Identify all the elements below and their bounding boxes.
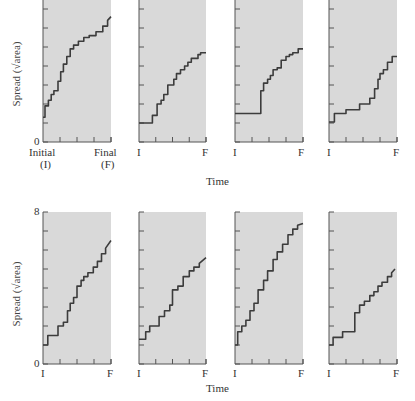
y-axis-label-bottom: Spread (√area) xyxy=(10,244,22,344)
x-label-f-top-3: F xyxy=(298,146,304,158)
chart-grid xyxy=(0,0,415,401)
x-label-f-bottom-2: F xyxy=(202,367,208,379)
x-label-final: Final xyxy=(94,146,117,158)
x-label-i-bottom-1: I xyxy=(41,367,45,379)
panel-background xyxy=(329,212,397,364)
x-label-f-bottom-1: F xyxy=(107,367,113,379)
x-label-i-top-3: I xyxy=(233,146,237,158)
x-label-i-top-4: I xyxy=(327,146,331,158)
y-axis-label-top: Spread (√area) xyxy=(10,24,22,124)
y-zero-label-bottom: 0 xyxy=(34,357,40,369)
y-eight-label-bottom: 8 xyxy=(34,205,40,217)
panel-background xyxy=(329,0,397,142)
x-label-i-bottom-4: I xyxy=(327,367,331,379)
x-label-initial: Initial xyxy=(29,146,55,158)
x-label-i-top-2: I xyxy=(137,146,141,158)
x-label-f-bottom-3: F xyxy=(298,367,304,379)
panel-background xyxy=(139,212,206,364)
panel-background xyxy=(139,0,206,142)
x-label-final-abbr: (F) xyxy=(101,158,114,170)
x-label-f-top-2: F xyxy=(202,146,208,158)
x-label-i-bottom-2: I xyxy=(137,367,141,379)
x-axis-title-top: Time xyxy=(206,175,229,187)
x-label-initial-abbr: (I) xyxy=(40,158,51,170)
x-label-f-top-4: F xyxy=(393,146,399,158)
panel-background xyxy=(43,0,111,142)
x-label-f-bottom-4: F xyxy=(393,367,399,379)
x-axis-title-bottom: Time xyxy=(206,382,229,394)
panel-background xyxy=(235,0,303,142)
x-label-i-bottom-3: I xyxy=(233,367,237,379)
